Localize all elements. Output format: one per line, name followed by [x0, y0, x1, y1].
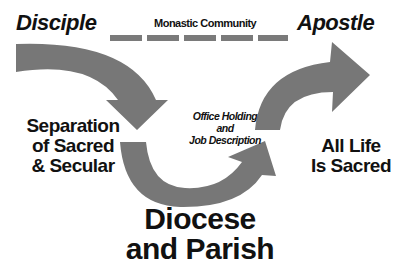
u-turn-arrow	[120, 141, 276, 207]
diocese-line-1: Diocese	[120, 204, 280, 234]
monastic-dashed-line	[110, 35, 288, 41]
separation-line-1: Separation	[18, 116, 128, 136]
office-holding-line-3: Job Description	[165, 134, 285, 146]
office-holding-line-2: and	[165, 122, 285, 134]
separation-line-2: of Sacred	[18, 136, 128, 156]
monastic-community-label: Monastic Community	[154, 18, 256, 29]
disciple-label: Disciple	[16, 12, 96, 34]
diocese-parish-label: Diocese and Parish	[120, 204, 280, 264]
separation-label: Separation of Sacred & Secular	[18, 116, 128, 176]
all-life-sacred-label: All Life Is Sacred	[305, 136, 397, 176]
office-holding-line-1: Office Holding	[165, 110, 285, 122]
all-life-line-2: Is Sacred	[305, 156, 397, 176]
all-life-line-1: All Life	[305, 136, 397, 156]
separation-line-3: & Secular	[18, 156, 128, 176]
office-holding-label: Office Holding and Job Description	[165, 110, 285, 146]
diocese-line-2: and Parish	[120, 234, 280, 264]
apostle-label: Apostle	[297, 12, 374, 34]
